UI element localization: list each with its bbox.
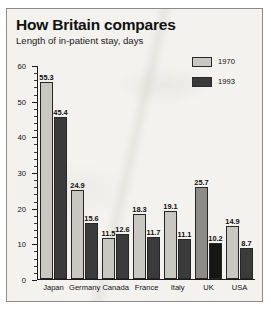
y-tick-minor — [34, 202, 37, 203]
y-tick-minor — [34, 87, 37, 88]
bar-japan-1993: 45.4 — [54, 117, 67, 279]
y-tick-label: 0 — [22, 276, 26, 285]
bar-value-label: 14.9 — [225, 217, 239, 226]
y-tick-minor — [34, 109, 37, 110]
bar-group: 19.111.1 — [162, 66, 193, 279]
y-tick-minor — [34, 187, 37, 188]
y-tick-label: 20 — [18, 204, 26, 213]
category-label-germany: Germany — [69, 283, 100, 292]
chart-subtitle: Length of in-patient stay, days — [16, 35, 143, 46]
y-tick-minor — [34, 159, 37, 160]
category-label-france: France — [131, 283, 162, 292]
y-tick-minor — [34, 230, 37, 231]
category-label-italy: Italy — [162, 283, 193, 292]
bar-canada-1993: 12.6 — [116, 234, 129, 279]
bar-group: 18.311.7 — [131, 66, 162, 279]
bar-germany-1993: 15.6 — [85, 223, 98, 279]
y-tick-label: 40 — [18, 133, 26, 142]
bar-value-label: 11.5 — [102, 229, 116, 238]
bar-usa-1993: 8.7 — [240, 248, 253, 279]
y-tick-minor — [34, 123, 37, 124]
bar-group: 14.98.7 — [224, 66, 255, 279]
y-tick-label: 30 — [18, 169, 26, 178]
bar-canada-1970: 11.5 — [102, 238, 115, 279]
bar-uk-1970: 25.7 — [195, 187, 208, 279]
bar-value-label: 45.4 — [53, 108, 67, 117]
x-axis-line — [37, 279, 255, 280]
category-label-canada: Canada — [100, 283, 131, 292]
y-tick-major: 0 — [32, 280, 37, 281]
bar-group: 25.710.2 — [193, 66, 224, 279]
bar-usa-1970: 14.9 — [226, 226, 239, 279]
y-tick-minor — [34, 166, 37, 167]
y-tick-minor — [34, 259, 37, 260]
y-tick-minor — [34, 95, 37, 96]
y-tick-minor — [34, 80, 37, 81]
category-label-japan: Japan — [38, 283, 69, 292]
bar-italy-1970: 19.1 — [164, 211, 177, 279]
bar-value-label: 11.1 — [178, 230, 192, 239]
legend-swatch-1970 — [192, 57, 212, 67]
bar-value-label: 24.9 — [70, 181, 84, 190]
chart-figure: How Britain compares Length of in-patien… — [6, 8, 263, 302]
y-tick-label: 10 — [18, 240, 26, 249]
y-tick-minor — [34, 223, 37, 224]
category-label-usa: USA — [224, 283, 255, 292]
y-tick-minor — [34, 237, 37, 238]
bar-value-label: 25.7 — [194, 178, 208, 187]
x-axis-category-labels: JapanGermanyCanadaFranceItalyUKUSA — [38, 283, 255, 292]
bar-value-label: 10.2 — [208, 234, 222, 243]
bar-france-1970: 18.3 — [133, 214, 146, 279]
y-tick-label: 60 — [18, 62, 26, 71]
category-label-uk: UK — [193, 283, 224, 292]
y-tick-major: 60 — [32, 66, 37, 67]
bar-value-label: 12.6 — [115, 225, 129, 234]
bar-france-1993: 11.7 — [147, 237, 160, 279]
y-tick-minor — [34, 116, 37, 117]
y-tick-minor — [34, 266, 37, 267]
y-tick-minor — [34, 144, 37, 145]
legend-label-1970: 1970 — [218, 57, 235, 66]
bar-value-label: 18.3 — [132, 205, 146, 214]
bar-uk-1993: 10.2 — [209, 243, 222, 279]
bar-value-label: 8.7 — [241, 239, 251, 248]
y-tick-minor — [34, 73, 37, 74]
y-tick-minor — [34, 130, 37, 131]
bar-value-label: 19.1 — [163, 202, 177, 211]
y-tick-major: 30 — [32, 173, 37, 174]
y-tick-major: 20 — [32, 209, 37, 210]
y-tick-minor — [34, 216, 37, 217]
bar-group: 11.512.6 — [100, 66, 131, 279]
bar-group: 24.915.6 — [69, 66, 100, 279]
bar-value-label: 11.7 — [147, 228, 161, 237]
y-tick-major: 40 — [32, 137, 37, 138]
bar-japan-1970: 55.3 — [40, 82, 53, 279]
y-tick-minor — [34, 251, 37, 252]
y-tick-minor — [34, 180, 37, 181]
bar-germany-1970: 24.9 — [71, 190, 84, 279]
y-tick-major: 50 — [32, 102, 37, 103]
y-tick-minor — [34, 273, 37, 274]
y-tick-label: 50 — [18, 97, 26, 106]
bar-group: 55.345.4 — [38, 66, 69, 279]
bar-italy-1993: 11.1 — [178, 239, 191, 279]
y-tick-major: 10 — [32, 244, 37, 245]
chart-title: How Britain compares — [16, 16, 176, 34]
bar-value-label: 15.6 — [84, 214, 98, 223]
bar-groups: 55.345.424.915.611.512.618.311.719.111.1… — [38, 66, 255, 279]
bar-value-label: 55.3 — [39, 73, 53, 82]
y-tick-minor — [34, 152, 37, 153]
y-tick-minor — [34, 194, 37, 195]
plot-area: 0102030405060 55.345.424.915.611.512.618… — [37, 66, 255, 280]
